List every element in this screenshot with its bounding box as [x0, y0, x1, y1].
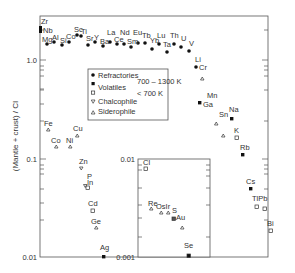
- svg-text:Cd: Cd: [88, 199, 98, 208]
- legend-label-siderophile: Siderophile: [98, 107, 136, 116]
- svg-text:U: U: [181, 34, 186, 43]
- svg-text:Ga: Ga: [203, 100, 214, 109]
- y-axis-ticks-right: [262, 30, 268, 220]
- legend-label-refractories: Refractories: [98, 71, 139, 80]
- svg-text:Bi: Bi: [267, 219, 274, 228]
- svg-text:Eu: Eu: [133, 28, 142, 37]
- svg-text:Ba: Ba: [100, 37, 110, 46]
- inset-tick-bottom: 0.001: [116, 253, 135, 262]
- svg-text:Au: Au: [176, 213, 185, 222]
- svg-text:V: V: [189, 39, 194, 48]
- svg-text:Mn: Mn: [207, 91, 217, 100]
- svg-text:Mg: Mg: [42, 35, 52, 44]
- svg-text:Nd: Nd: [120, 28, 130, 37]
- inset-tick-top: 0.01: [120, 155, 135, 164]
- svg-text:Th: Th: [170, 31, 179, 40]
- legend-label-chalcophile: Chalcophile: [98, 97, 137, 106]
- svg-text:Zn: Zn: [79, 157, 88, 166]
- svg-text:In: In: [87, 178, 93, 187]
- svg-text:K: K: [234, 126, 239, 135]
- y-tick-0.1: 0.1: [27, 155, 37, 164]
- y-tick-0.01: 0.01: [22, 253, 37, 262]
- legend-marker-refractories: [91, 73, 95, 77]
- svg-text:Cu: Cu: [73, 124, 83, 133]
- svg-text:OsIr: OsIr: [156, 202, 171, 211]
- svg-text:Zr: Zr: [41, 17, 49, 26]
- svg-text:Na: Na: [229, 105, 239, 114]
- svg-text:Al: Al: [52, 33, 59, 42]
- legend-label-range-lo: < 700 K: [137, 89, 163, 98]
- svg-text:Cs: Cs: [246, 177, 255, 186]
- svg-text:TlPb: TlPb: [252, 194, 267, 203]
- svg-text:Sm: Sm: [127, 37, 138, 46]
- svg-text:Ge: Ge: [91, 217, 101, 226]
- svg-text:Y: Y: [94, 33, 99, 42]
- legend-label-volatiles: Volatiles: [98, 83, 126, 92]
- svg-text:Fe: Fe: [44, 119, 53, 128]
- series-chalcophile: [80, 167, 88, 188]
- svg-text:Sn: Sn: [219, 110, 228, 119]
- svg-text:Co: Co: [51, 136, 61, 145]
- svg-text:Lu: Lu: [157, 31, 165, 40]
- legend-label-range-hi: 700 – 1300 K: [137, 77, 182, 86]
- svg-text:Rb: Rb: [240, 143, 250, 152]
- svg-text:Cr: Cr: [199, 63, 207, 72]
- svg-text:Ni: Ni: [66, 136, 73, 145]
- y-axis-title: (Mantle + crust) / CI: [11, 101, 20, 171]
- chart: 1.0 0.1 0.01 (Mantle + crust) / CI 0.01 …: [0, 0, 295, 273]
- legend-marker-volatiles-hi: [92, 82, 95, 85]
- svg-text:Sr: Sr: [86, 34, 94, 43]
- y-tick-1: 1.0: [27, 56, 37, 65]
- svg-text:Cl: Cl: [143, 158, 150, 167]
- svg-text:Se: Se: [184, 241, 193, 250]
- svg-text:Ta: Ta: [163, 40, 172, 49]
- svg-text:Ag: Ag: [100, 243, 109, 252]
